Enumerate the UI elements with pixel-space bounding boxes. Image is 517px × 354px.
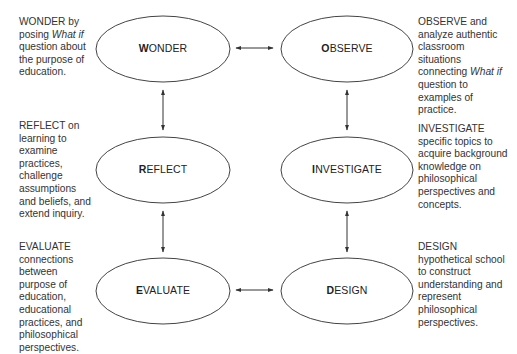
desc-design: DESIGN hypothetical school to construct … <box>418 241 510 329</box>
label-rest: ONDER <box>149 42 187 54</box>
desc-reflect: REFLECT on learning to examine practices… <box>19 120 95 221</box>
desc-lead: INVESTIGATE <box>418 123 485 134</box>
desc-emphasis: What if <box>470 66 502 77</box>
label-rest: EFLECT <box>146 163 187 175</box>
desc-investigate: INVESTIGATE specific topics to acquire b… <box>418 123 510 211</box>
label-rest: NVESTIGATE <box>315 163 382 175</box>
desc-lead: OBSERVE and <box>418 16 487 27</box>
label-initial: E <box>136 284 143 296</box>
desc-lead: WONDER by <box>19 16 79 27</box>
node-observe-label: OBSERVE <box>280 42 414 54</box>
node-wonder-label: WONDER <box>96 42 230 54</box>
desc-observe: OBSERVE and analyze authentic classroom … <box>418 16 510 117</box>
node-reflect-label: REFLECT <box>96 163 230 175</box>
desc-wonder: WONDER by posing What if question about … <box>19 16 89 79</box>
desc-text: specific topics to acquire background kn… <box>418 136 507 210</box>
label-initial: W <box>139 42 149 54</box>
desc-lead: REFLECT on <box>19 120 79 131</box>
desc-emphasis: What if <box>52 29 84 40</box>
node-design-label: DESIGN <box>280 284 414 296</box>
desc-text: learning to examine practices, challenge… <box>19 133 91 220</box>
desc-text: connections between purpose of education… <box>19 254 82 353</box>
desc-evaluate: EVALUATE connections between purpose of … <box>19 241 95 354</box>
node-evaluate-label: EVALUATE <box>96 284 230 296</box>
desc-text: question about the purpose of education. <box>19 41 86 77</box>
desc-text: hypothetical school to construct underst… <box>418 254 505 328</box>
desc-lead: EVALUATE <box>19 241 71 252</box>
desc-lead: DESIGN <box>418 241 457 252</box>
node-investigate-label: INVESTIGATE <box>280 163 414 175</box>
label-rest: BSERVE <box>330 42 373 54</box>
desc-text: question to examples of practice. <box>418 79 473 115</box>
label-rest: ESIGN <box>334 284 367 296</box>
label-rest: VALUATE <box>143 284 190 296</box>
desc-text: posing <box>19 29 52 40</box>
label-initial: O <box>321 42 329 54</box>
